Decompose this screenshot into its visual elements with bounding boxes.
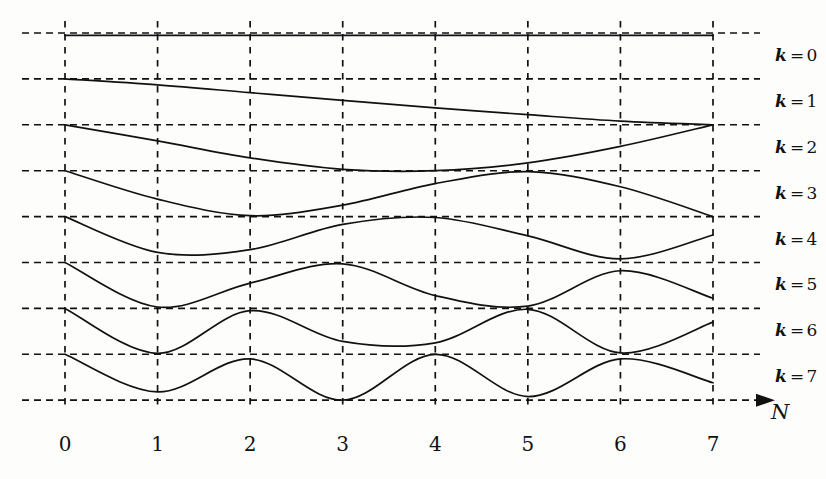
equals-sign: = xyxy=(788,137,806,157)
equals-sign: = xyxy=(788,45,806,65)
legend-variable-k: k xyxy=(775,366,788,386)
x-tick-label-5: 5 xyxy=(508,432,548,456)
x-tick-label-3: 3 xyxy=(323,432,363,456)
legend-label-k-3: k=3 xyxy=(775,183,817,203)
figure-root: k=0k=1k=2k=3k=4k=5k=6k=7 01234567 N xyxy=(0,0,826,479)
x-axis-name: N xyxy=(771,400,789,424)
curve-k-1 xyxy=(65,79,713,125)
x-axis xyxy=(22,394,775,407)
equals-sign: = xyxy=(788,274,806,294)
legend-label-k-2: k=2 xyxy=(775,137,817,157)
curve-k-2 xyxy=(65,125,713,172)
legend-value: 0 xyxy=(806,45,817,65)
legend-variable-k: k xyxy=(775,320,788,340)
legend-variable-k: k xyxy=(775,45,788,65)
legend-value: 3 xyxy=(806,183,817,203)
legend-label-k-1: k=1 xyxy=(775,91,817,111)
x-tick-label-0: 0 xyxy=(45,432,85,456)
legend-variable-k: k xyxy=(775,183,788,203)
plot-area xyxy=(0,0,826,479)
equals-sign: = xyxy=(788,366,806,386)
curve-k-6 xyxy=(65,308,713,353)
x-tick-label-6: 6 xyxy=(600,432,640,456)
x-tick-label-4: 4 xyxy=(415,432,455,456)
legend-variable-k: k xyxy=(775,91,788,111)
legend-value: 7 xyxy=(806,366,817,386)
legend-label-k-4: k=4 xyxy=(775,229,817,249)
legend-variable-k: k xyxy=(775,137,788,157)
legend-value: 4 xyxy=(806,229,817,249)
equals-sign: = xyxy=(788,320,806,340)
curve-group xyxy=(65,35,713,400)
legend-value: 2 xyxy=(806,137,817,157)
equals-sign: = xyxy=(788,91,806,111)
legend-variable-k: k xyxy=(775,274,788,294)
curve-k-4 xyxy=(65,217,713,259)
x-tick-label-2: 2 xyxy=(230,432,270,456)
curve-k-3 xyxy=(65,171,713,217)
legend-value: 5 xyxy=(806,274,817,294)
legend-value: 1 xyxy=(806,91,817,111)
legend-label-k-5: k=5 xyxy=(775,274,817,294)
legend-label-k-0: k=0 xyxy=(775,45,817,65)
x-tick-label-7: 7 xyxy=(693,432,733,456)
legend-variable-k: k xyxy=(775,229,788,249)
legend-label-k-7: k=7 xyxy=(775,366,817,386)
curve-k-7 xyxy=(65,354,713,400)
legend-value: 6 xyxy=(806,320,817,340)
curve-k-5 xyxy=(65,263,713,308)
equals-sign: = xyxy=(788,183,806,203)
x-tick-label-1: 1 xyxy=(138,432,178,456)
legend-label-k-6: k=6 xyxy=(775,320,817,340)
equals-sign: = xyxy=(788,229,806,249)
